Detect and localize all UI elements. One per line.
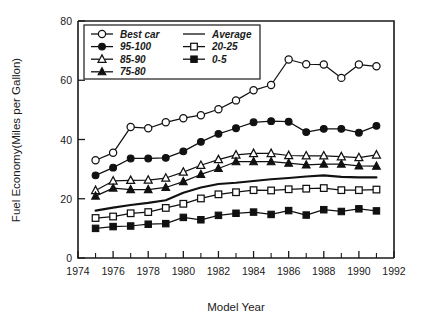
marker-circle-open — [268, 81, 275, 88]
x-tick-label: 1988 — [312, 265, 336, 277]
marker-square-open — [268, 187, 275, 194]
marker-circle-filled — [338, 125, 345, 132]
marker-circle-filled — [145, 155, 152, 162]
marker-circle-filled — [320, 125, 327, 132]
x-tick-label: 1980 — [172, 265, 196, 277]
marker-circle-filled — [355, 129, 362, 136]
x-axis-title: Model Year — [207, 301, 265, 313]
x-tick-label: 1978 — [137, 265, 161, 277]
marker-circle-filled — [197, 138, 204, 145]
marker-square-filled — [338, 208, 344, 214]
marker-circle-open — [162, 119, 169, 126]
x-tick-label: 1974 — [66, 265, 90, 277]
marker-square-filled — [191, 56, 197, 62]
marker-circle-filled — [233, 125, 240, 132]
marker-circle-filled — [110, 164, 117, 171]
legend-label: 0-5 — [212, 54, 227, 65]
y-tick-label: 0 — [66, 252, 72, 264]
marker-circle-open — [215, 106, 222, 113]
marker-circle-filled — [268, 118, 275, 125]
marker-square-filled — [92, 225, 98, 231]
marker-square-open — [162, 205, 169, 212]
marker-circle-filled — [162, 154, 169, 161]
marker-square-open — [92, 215, 99, 222]
x-tick-label: 1986 — [277, 265, 301, 277]
marker-circle-open — [355, 61, 362, 68]
marker-square-filled — [233, 210, 239, 216]
marker-circle-open — [197, 112, 204, 119]
marker-square-filled — [127, 223, 133, 229]
marker-square-open — [285, 186, 292, 193]
legend-label: 75-80 — [120, 66, 146, 77]
y-tick-label: 60 — [60, 74, 72, 86]
legend-label: Best car — [120, 29, 161, 40]
x-tick-label: 1990 — [347, 265, 371, 277]
marker-circle-open — [145, 125, 152, 132]
marker-circle-open — [338, 74, 345, 81]
marker-square-filled — [285, 207, 291, 213]
marker-square-open — [215, 191, 222, 198]
marker-circle-filled — [303, 129, 310, 136]
legend-label: 20-25 — [211, 41, 238, 52]
marker-circle-filled — [285, 118, 292, 125]
legend-label: Average — [211, 29, 252, 40]
marker-circle-filled — [373, 122, 380, 129]
marker-square-open — [180, 200, 187, 207]
marker-square-open — [373, 186, 380, 193]
marker-circle-filled — [215, 130, 222, 137]
marker-circle-filled — [250, 119, 257, 126]
marker-square-filled — [163, 220, 169, 226]
marker-square-open — [303, 185, 310, 192]
fuel-economy-chart: 0204060801974197619781980198219841986198… — [0, 0, 431, 327]
y-tick-label: 80 — [60, 15, 72, 27]
marker-circle-open — [92, 157, 99, 164]
marker-square-filled — [110, 223, 116, 229]
legend-label: 85-90 — [120, 54, 146, 65]
marker-circle-open — [232, 97, 239, 104]
y-tick-label: 40 — [60, 134, 72, 146]
marker-square-open — [145, 209, 152, 216]
marker-square-open — [320, 185, 327, 192]
marker-circle-open — [250, 87, 257, 94]
y-axis-title: Fuel Economy(Miles per Gallon) — [10, 58, 22, 222]
marker-square-open — [110, 213, 117, 220]
marker-circle-open — [110, 149, 117, 156]
marker-circle-open — [98, 30, 105, 37]
marker-square-open — [250, 187, 257, 194]
marker-circle-open — [303, 61, 310, 68]
marker-square-open — [233, 189, 240, 196]
marker-square-filled — [303, 212, 309, 218]
chart-canvas: 0204060801974197619781980198219841986198… — [0, 0, 431, 327]
marker-circle-open — [373, 63, 380, 70]
marker-square-filled — [268, 211, 274, 217]
marker-square-open — [191, 43, 198, 50]
x-tick-label: 1984 — [242, 265, 266, 277]
y-tick-label: 20 — [60, 193, 72, 205]
marker-square-filled — [198, 217, 204, 223]
marker-square-filled — [321, 207, 327, 213]
marker-square-open — [338, 187, 345, 194]
marker-circle-open — [320, 61, 327, 68]
marker-square-filled — [250, 209, 256, 215]
marker-circle-filled — [99, 43, 106, 50]
legend-item-best-car[interactable]: Best car — [91, 29, 161, 40]
marker-circle-open — [180, 115, 187, 122]
legend-label: 95-100 — [120, 41, 152, 52]
marker-circle-open — [285, 56, 292, 63]
marker-square-filled — [356, 206, 362, 212]
marker-circle-open — [127, 123, 134, 130]
marker-square-filled — [215, 212, 221, 218]
marker-circle-filled — [127, 155, 134, 162]
marker-square-open — [356, 187, 363, 194]
x-tick-label: 1976 — [101, 265, 125, 277]
marker-square-open — [127, 210, 134, 217]
x-tick-label: 1982 — [207, 265, 231, 277]
x-tick-label: 1992 — [382, 265, 406, 277]
marker-square-filled — [180, 214, 186, 220]
marker-square-filled — [145, 221, 151, 227]
marker-square-open — [198, 195, 205, 202]
marker-circle-filled — [180, 148, 187, 155]
marker-square-filled — [373, 208, 379, 214]
marker-circle-filled — [92, 172, 99, 179]
